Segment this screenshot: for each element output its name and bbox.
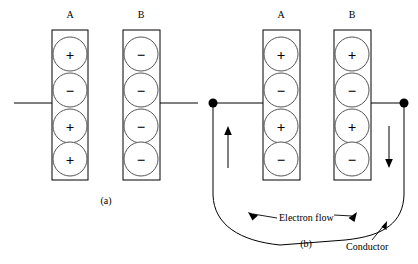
electron-flow-arrowhead-right (349, 212, 358, 222)
panel-a-plate-A: A + − + + (52, 9, 88, 180)
panel-b-plate-B-charge-4: − (348, 152, 357, 168)
panel-a-plate-A-label: A (66, 9, 74, 20)
left-wire-arrow-up-icon (224, 126, 232, 168)
panel-a-plate-B-label: B (138, 9, 145, 20)
left-arrow-head (224, 126, 232, 135)
panel-b-plate-B-charge-2: − (348, 83, 357, 99)
panel-b-plate-B-charge-3: + (348, 119, 357, 135)
panel-a-plate-A-charge-4: + (66, 152, 75, 168)
right-terminal-node (400, 99, 409, 108)
panel-b: A + − + − B + − + (209, 9, 409, 252)
panel-b-plate-A-charge-2: − (277, 83, 286, 99)
panel-b-plate-A-label: A (277, 9, 285, 20)
panel-a-plate-A-charge-1: + (66, 47, 75, 63)
panel-a: A + − + + B − − − (14, 9, 198, 207)
electron-flow-label: Electron flow (279, 212, 334, 223)
panel-a-plate-A-charge-2: − (66, 83, 75, 99)
panel-b-plate-B-label: B (349, 9, 356, 20)
electron-flow-arrowhead-left (248, 212, 258, 221)
figure-svg: A + − + + B − − − (0, 0, 418, 264)
conductor-leader-arrowhead (382, 221, 388, 230)
panel-b-plate-B-charge-1: + (348, 47, 357, 63)
right-wire-arrow-down-icon (385, 126, 393, 168)
panel-a-caption: (a) (100, 195, 111, 207)
conductor-label: Conductor (346, 241, 389, 252)
panel-b-plate-A: A + − + − (263, 9, 300, 180)
panel-b-plate-B: B + − + − (334, 9, 371, 180)
panel-b-plate-A-charge-1: + (277, 47, 286, 63)
panel-a-plate-B-charge-2: − (137, 83, 146, 99)
figure-container: A + − + + B − − − (0, 0, 418, 264)
panel-b-caption: (b) (300, 238, 312, 250)
right-arrow-head (385, 159, 393, 168)
panel-b-plate-A-charge-3: + (277, 119, 286, 135)
left-terminal-node (209, 99, 218, 108)
panel-a-plate-B-charge-1: − (137, 47, 146, 63)
panel-a-plate-B-charge-3: − (137, 119, 146, 135)
panel-a-plate-B-charge-4: − (137, 152, 146, 168)
electron-flow-leader-right (334, 215, 352, 216)
panel-a-plate-B: B − − − − (123, 9, 160, 180)
panel-b-plate-A-charge-4: − (277, 152, 286, 168)
panel-a-plate-A-charge-3: + (66, 119, 75, 135)
